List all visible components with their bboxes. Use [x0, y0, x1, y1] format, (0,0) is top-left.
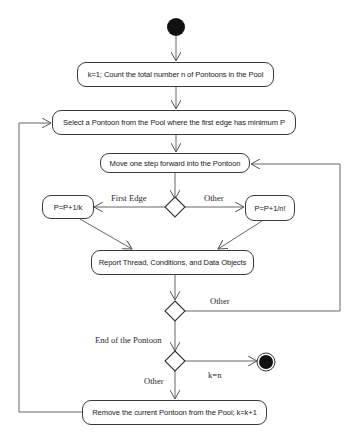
edge-pfirst-report [80, 219, 132, 249]
decision-k-equals-n [165, 351, 185, 371]
action-move-forward: Move one step forward into the Pontoon [100, 153, 250, 173]
action-remove-pontoon: Remove the current Pontoon from the Pool… [82, 400, 267, 425]
decision-edge-type [165, 197, 185, 217]
label-k-equals-n: k=n [208, 370, 221, 380]
action-p-first: P=P+1/k [42, 195, 94, 219]
label-other-down: Other [144, 376, 164, 386]
label-other-right: Other [204, 193, 224, 203]
initial-node [167, 18, 185, 36]
action-report: Report Thread, Conditions, and Data Obje… [91, 250, 254, 275]
label-end-of-pontoon: End of the Pontoon [95, 335, 162, 345]
action-select-pontoon: Select a Pontoon from the Pool where the… [52, 110, 296, 135]
action-init: k=1; Count the total number n of Pontoon… [77, 62, 274, 87]
edge-pother-report [218, 221, 262, 249]
decision-pontoon-end [165, 301, 185, 321]
edge-decision2-loop-move [185, 164, 340, 311]
label-first-edge: First Edge [111, 193, 147, 203]
final-node [259, 355, 273, 369]
action-p-other: P=P+1/n! [245, 195, 295, 221]
activity-diagram: k=1; Count the total number n of Pontoon… [0, 0, 362, 441]
edge-remove-loop-select [19, 123, 82, 412]
label-other-loop: Other [210, 296, 230, 306]
